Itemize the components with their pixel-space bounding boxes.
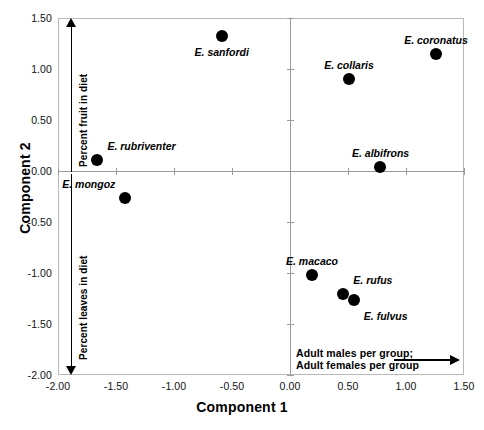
x-tick-label: -2.00	[32, 380, 84, 392]
data-point	[306, 269, 318, 281]
data-point	[348, 294, 360, 306]
percent-fruit-arrow-head-icon	[66, 18, 76, 27]
x-tick-label: -0.50	[206, 380, 258, 392]
x-tick-mark	[58, 168, 59, 175]
x-tick-mark	[406, 168, 407, 175]
x-tick-label: 1.50	[438, 380, 484, 392]
x-tick-label: 0.50	[322, 380, 374, 392]
percent-leaves-annotation: Percent leaves in diet	[78, 256, 89, 360]
y-tick-mark	[287, 18, 294, 19]
y-tick-label: -1.50	[8, 318, 52, 330]
y-tick-label: -1.00	[8, 267, 52, 279]
data-point	[119, 192, 131, 204]
y-tick-mark	[287, 324, 294, 325]
y-zero-axis-line	[290, 18, 291, 375]
data-point-label: E. macaco	[286, 255, 338, 267]
percent-leaves-arrow-shaft	[71, 174, 72, 368]
data-point	[216, 30, 228, 42]
data-point-label: E. sanfordi	[195, 46, 249, 58]
data-point-label: E. fulvus	[364, 310, 408, 322]
x-zero-axis-line	[58, 171, 464, 172]
x-tick-label: -1.00	[148, 380, 200, 392]
group-composition-arrow-shaft	[394, 359, 452, 361]
data-point-label: E. rubriventer	[107, 140, 175, 152]
group-composition-line1: Adult males per group;	[296, 347, 413, 359]
percent-leaves-arrow-head-icon	[66, 366, 76, 375]
data-point-label: E. collaris	[324, 59, 374, 71]
x-tick-mark	[174, 168, 175, 175]
scatter-plot-figure: -2.00-1.50-1.00-0.500.000.501.001.501.50…	[0, 0, 484, 430]
data-point-label: E. albifrons	[352, 147, 409, 159]
y-tick-mark	[287, 273, 294, 274]
x-tick-mark	[116, 168, 117, 175]
y-tick-mark	[287, 375, 294, 376]
data-point-label: E. coronatus	[404, 34, 468, 46]
x-tick-mark	[464, 168, 465, 175]
x-tick-mark	[232, 168, 233, 175]
x-axis-title: Component 1	[0, 399, 484, 415]
x-tick-label: -1.50	[90, 380, 142, 392]
y-tick-mark	[287, 120, 294, 121]
y-tick-label: 1.50	[8, 12, 52, 24]
x-tick-label: 1.00	[380, 380, 432, 392]
percent-fruit-annotation: Percent fruit in diet	[78, 74, 89, 167]
y-tick-mark	[287, 222, 294, 223]
y-tick-mark	[287, 69, 294, 70]
y-tick-label: 1.00	[8, 63, 52, 75]
data-point-label: E. rufus	[353, 274, 392, 286]
data-point	[430, 48, 442, 60]
x-tick-mark	[348, 168, 349, 175]
y-tick-label: -2.00	[8, 369, 52, 381]
group-composition-arrow-head-icon	[450, 355, 460, 365]
y-axis-title: Component 2	[17, 108, 33, 268]
x-tick-label: 0.00	[264, 380, 316, 392]
percent-fruit-arrow-shaft	[71, 22, 72, 172]
